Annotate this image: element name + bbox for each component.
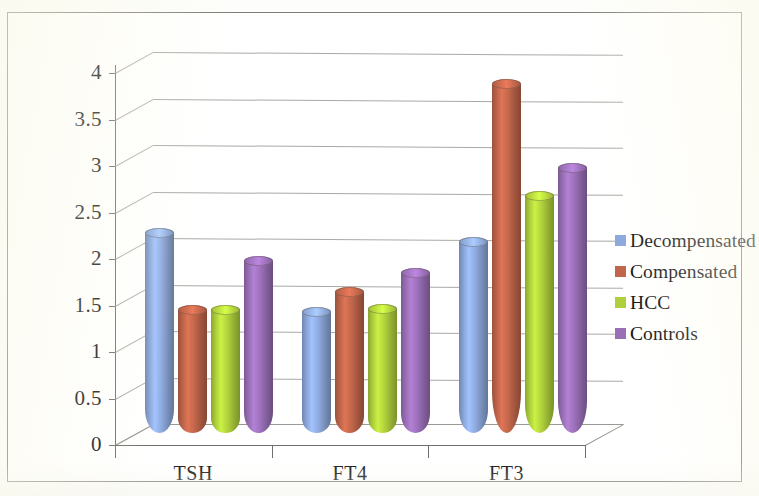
legend-label: Controls	[630, 323, 698, 345]
value-axis-label: 1	[56, 341, 102, 362]
gridline	[153, 99, 623, 103]
bar-controls-ft4	[401, 273, 430, 433]
bar-body	[335, 292, 364, 433]
bar-cap-outline	[244, 256, 273, 266]
value-axis-label: 2.5	[56, 202, 102, 223]
category-axis-label: FT3	[447, 462, 567, 485]
value-axis-label: 3	[56, 155, 102, 176]
bar-body	[459, 242, 488, 433]
legend-item[interactable]: Decompensated	[615, 225, 759, 256]
value-axis-label: 1.5	[56, 295, 102, 316]
legend: DecompensatedCompensatedHCCControls	[615, 225, 759, 349]
axis-depth-riser	[115, 192, 153, 214]
category-axis-tick	[428, 445, 429, 458]
gridline	[153, 145, 623, 149]
bar-cap-outline	[335, 287, 364, 297]
bar-controls-tsh	[244, 261, 273, 433]
bar-body	[368, 309, 397, 433]
bar-hcc-ft3	[525, 196, 554, 433]
bar-compensated-ft3	[492, 84, 521, 433]
chart-frame: 00.511.522.533.54 TSHFT4FT3 Decompensate…	[7, 12, 742, 482]
value-axis-label: 3.5	[56, 109, 102, 130]
category-axis-tick	[115, 445, 116, 458]
bar-compensated-tsh	[178, 310, 207, 433]
value-axis-line	[115, 65, 116, 446]
legend-item[interactable]: Compensated	[615, 256, 759, 287]
bar-body	[178, 310, 207, 433]
category-axis-tick	[585, 445, 586, 458]
value-axis-label: 0	[56, 434, 102, 455]
value-axis-label: 4	[56, 62, 102, 83]
floor-right-edge	[585, 424, 624, 446]
legend-label: Decompensated	[630, 230, 756, 252]
value-axis-label: 0.5	[56, 388, 102, 409]
bar-controls-ft3	[558, 168, 587, 433]
bar-decompensated-tsh	[145, 233, 174, 433]
axis-depth-riser	[115, 99, 153, 121]
bar-hcc-tsh	[211, 310, 240, 433]
axis-depth-riser	[115, 52, 153, 74]
bar-body	[211, 310, 240, 433]
legend-item[interactable]: HCC	[615, 287, 759, 318]
bar-body	[244, 261, 273, 433]
bar-decompensated-ft4	[302, 312, 331, 433]
legend-label: Compensated	[630, 261, 737, 283]
legend-swatch-decompensated	[615, 235, 626, 246]
bar-body	[145, 233, 174, 433]
bar-cap-outline	[401, 268, 430, 278]
bar-body	[492, 84, 521, 433]
legend-swatch-hcc	[615, 297, 626, 308]
bar-compensated-ft4	[335, 292, 364, 433]
value-axis-label: 2	[56, 248, 102, 269]
legend-swatch-compensated	[615, 266, 626, 277]
bar-cap-outline	[558, 163, 587, 173]
bar-decompensated-ft3	[459, 242, 488, 433]
axis-depth-riser	[115, 145, 153, 167]
category-axis-label: FT4	[290, 462, 410, 485]
legend-swatch-controls	[615, 328, 626, 339]
bar-body	[401, 273, 430, 433]
category-axis-line	[115, 445, 585, 446]
category-axis-tick	[272, 445, 273, 458]
bar-body	[302, 312, 331, 433]
bar-cap-outline	[525, 191, 554, 201]
bar-hcc-ft4	[368, 309, 397, 433]
bar-body	[525, 196, 554, 433]
category-axis-label: TSH	[133, 462, 253, 485]
legend-item[interactable]: Controls	[615, 318, 759, 349]
legend-label: HCC	[630, 292, 670, 314]
bar-body	[558, 168, 587, 433]
gridline	[153, 52, 623, 56]
